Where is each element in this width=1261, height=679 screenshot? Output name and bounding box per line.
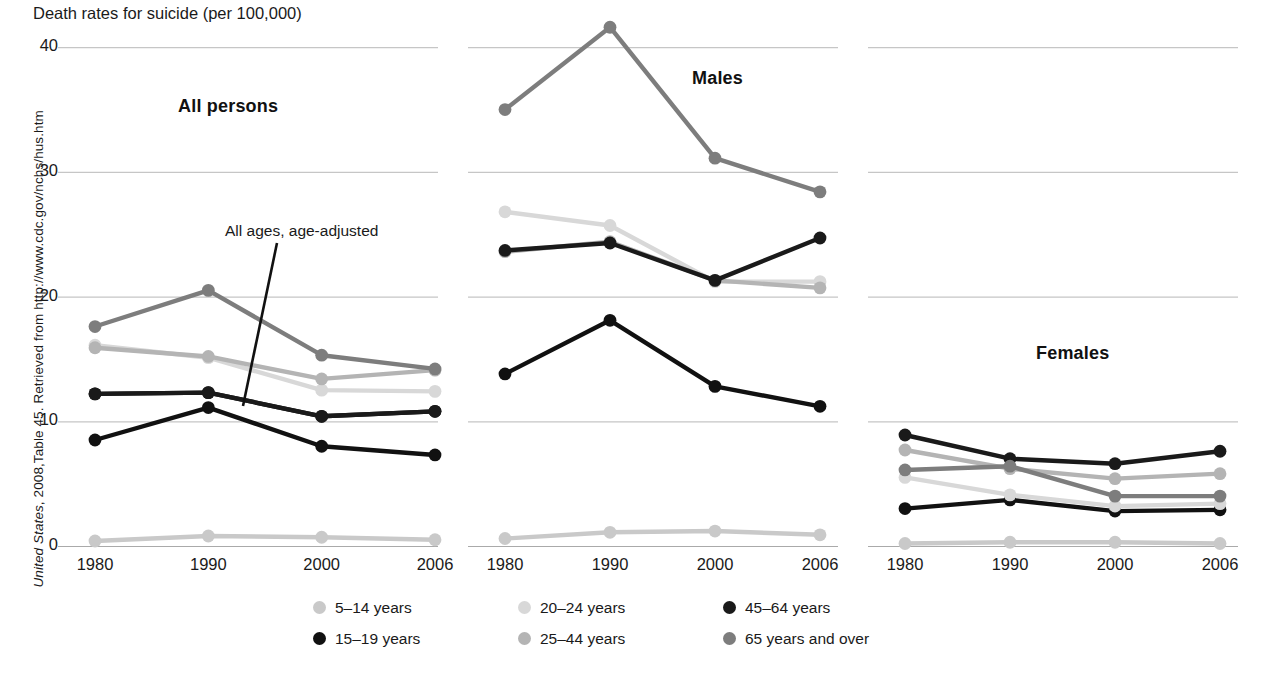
- datapoint-65-years-and-over-1980: [499, 103, 512, 116]
- datapoint-65-years-and-over-1990: [604, 21, 617, 34]
- datapoint-65-years-and-over-2000: [709, 152, 722, 165]
- datapoint-5-14-years-2006: [1214, 537, 1227, 550]
- datapoint-25-44-years-1980: [89, 341, 102, 354]
- datapoint-65-years-and-over-1990: [1004, 460, 1017, 473]
- legend-marker-dot-icon: [313, 632, 326, 645]
- datapoint-25-44-years-2006: [1214, 467, 1227, 480]
- datapoint-all-ages-age-adjusted-2000: [315, 410, 328, 423]
- datapoint-65-years-and-over-1990: [202, 284, 215, 297]
- datapoint-25-44-years-1990: [202, 350, 215, 363]
- legend-marker-dot-icon: [723, 632, 736, 645]
- chart-root: United States, 2008,Table 45. Retrieved …: [0, 0, 1261, 679]
- datapoint-20-24-years-1980: [499, 205, 512, 218]
- datapoint-all-ages-age-adjusted-1990: [202, 386, 215, 399]
- x-tick-label-p0-2000: 2000: [282, 555, 362, 574]
- datapoint-65-years-and-over-2006: [814, 185, 827, 198]
- legend-marker-dot-icon: [313, 601, 326, 614]
- datapoint-5-14-years-1980: [899, 537, 912, 550]
- datapoint-5-14-years-2000: [709, 525, 722, 538]
- datapoint-65-years-and-over-1980: [899, 464, 912, 477]
- y-tick-label-10: 10: [18, 410, 58, 429]
- x-tick-label-p0-1990: 1990: [168, 555, 248, 574]
- datapoint-65-years-and-over-2006: [1214, 490, 1227, 503]
- legend-marker-dot-icon: [518, 632, 531, 645]
- datapoint-15-19-years-1990: [604, 314, 617, 327]
- datapoint-65-years-and-over-2000: [315, 349, 328, 362]
- x-tick-label-p0-1980: 1980: [55, 555, 135, 574]
- datapoint-15-19-years-2000: [709, 380, 722, 393]
- legend: 5–14 years15–19 years 20–24 years25–44 y…: [0, 592, 1261, 654]
- legend-label: 15–19 years: [335, 630, 420, 648]
- legend-item[interactable]: 5–14 years: [313, 592, 420, 623]
- panel-males: [499, 21, 827, 545]
- datapoint-5-14-years-2006: [814, 528, 827, 541]
- legend-label: 65 years and over: [745, 630, 869, 648]
- legend-column-1: 5–14 years15–19 years: [313, 592, 420, 654]
- datapoint-45-64-years-2000: [709, 274, 722, 287]
- datapoint-all-ages-age-adjusted-2006: [429, 405, 442, 418]
- datapoint-20-24-years-2006: [429, 385, 442, 398]
- datapoint-45-64-years-1980: [499, 244, 512, 257]
- panel-title-all-persons: All persons: [178, 96, 278, 117]
- datapoint-15-19-years-2006: [429, 449, 442, 462]
- datapoint-45-64-years-2000: [1109, 457, 1122, 470]
- series-line-65-years-and-over: [905, 466, 1220, 496]
- series-line-all-ages-age-adjusted: [95, 393, 435, 417]
- datapoint-5-14-years-2006: [429, 533, 442, 546]
- datapoint-25-44-years-1980: [899, 444, 912, 457]
- legend-label: 20–24 years: [540, 599, 625, 617]
- datapoint-25-44-years-2006: [814, 281, 827, 294]
- series-line-5-14-years: [905, 542, 1220, 543]
- datapoint-20-24-years-1990: [604, 219, 617, 232]
- x-tick-label-p2-2000: 2000: [1075, 555, 1155, 574]
- legend-item[interactable]: 45–64 years: [723, 592, 869, 623]
- series-line-65-years-and-over: [505, 27, 820, 192]
- panel-all-persons: [89, 284, 442, 547]
- datapoint-5-14-years-1990: [604, 526, 617, 539]
- datapoint-45-64-years-2006: [1214, 445, 1227, 458]
- x-tick-label-p2-2006: 2006: [1180, 555, 1260, 574]
- series-line-5-14-years: [95, 536, 435, 541]
- datapoint-45-64-years-1980: [899, 429, 912, 442]
- series-line-5-14-years: [505, 531, 820, 538]
- datapoint-15-19-years-1990: [202, 401, 215, 414]
- series-line-25-44-years: [905, 450, 1220, 479]
- x-tick-label-p2-1990: 1990: [970, 555, 1050, 574]
- legend-column-2: 20–24 years25–44 years: [518, 592, 625, 654]
- legend-marker-dot-icon: [518, 601, 531, 614]
- legend-label: 25–44 years: [540, 630, 625, 648]
- legend-marker-dot-icon: [723, 601, 736, 614]
- panel-title-males: Males: [692, 68, 743, 89]
- legend-label: 45–64 years: [745, 599, 830, 617]
- x-tick-label-p1-2000: 2000: [675, 555, 755, 574]
- datapoint-25-44-years-2000: [1109, 472, 1122, 485]
- datapoint-15-19-years-1980: [499, 368, 512, 381]
- datapoint-15-19-years-1980: [89, 434, 102, 447]
- datapoint-5-14-years-1990: [1004, 536, 1017, 549]
- y-tick-label-30: 30: [18, 161, 58, 180]
- datapoint-5-14-years-1990: [202, 530, 215, 543]
- datapoint-5-14-years-1980: [499, 532, 512, 545]
- legend-label: 5–14 years: [335, 599, 412, 617]
- y-tick-label-40: 40: [18, 36, 58, 55]
- legend-item[interactable]: 20–24 years: [518, 592, 625, 623]
- datapoint-65-years-and-over-1980: [89, 320, 102, 333]
- datapoint-5-14-years-1980: [89, 535, 102, 548]
- legend-column-3: 45–64 years65 years and over: [723, 592, 869, 654]
- datapoint-15-19-years-2000: [315, 440, 328, 453]
- datapoint-25-44-years-2000: [315, 373, 328, 386]
- legend-item[interactable]: 25–44 years: [518, 623, 625, 654]
- x-tick-label-p0-2006: 2006: [395, 555, 475, 574]
- datapoint-5-14-years-2000: [315, 531, 328, 544]
- datapoint-15-19-years-1980: [899, 502, 912, 515]
- series-line-15-19-years: [505, 320, 820, 406]
- datapoint-20-24-years-2000: [315, 384, 328, 397]
- datapoint-5-14-years-2000: [1109, 536, 1122, 549]
- datapoint-65-years-and-over-2006: [429, 363, 442, 376]
- legend-item[interactable]: 15–19 years: [313, 623, 420, 654]
- legend-item[interactable]: 65 years and over: [723, 623, 869, 654]
- x-tick-label-p1-2006: 2006: [780, 555, 860, 574]
- datapoint-45-64-years-2006: [814, 232, 827, 245]
- y-tick-label-0: 0: [18, 535, 58, 554]
- panel-title-females: Females: [1036, 343, 1109, 364]
